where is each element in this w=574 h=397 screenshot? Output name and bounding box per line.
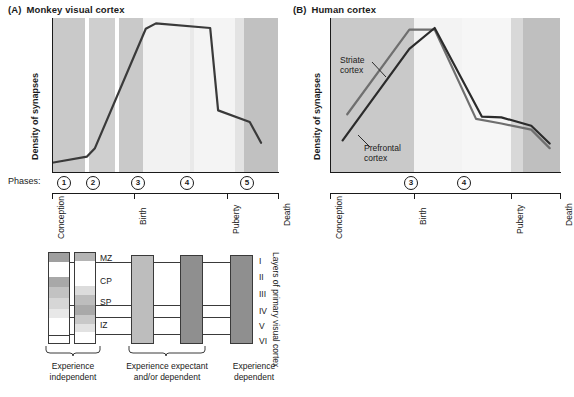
zone-strip-late — [74, 252, 96, 344]
caption-experience-independent-line2: independent — [25, 372, 121, 383]
layer-numeral-iii: III — [259, 289, 266, 299]
striate-cortex-label-line2: cortex — [340, 65, 365, 75]
phase-marker-4: 4 — [180, 176, 194, 190]
phase-marker-2: 2 — [86, 176, 100, 190]
panel-b-timeline-ruler — [330, 193, 561, 194]
zone-label-cp: CP — [100, 276, 112, 286]
layer-numeral-iv: IV — [259, 306, 267, 316]
panel-b-timeline-label-conception: Conception — [334, 196, 344, 239]
panel-b-phase-marker-3: 3 — [404, 176, 418, 190]
layer-numeral-vi: VI — [259, 336, 267, 346]
panel-a-y-axis-label: Density of synapses — [30, 73, 40, 160]
panel-b-tick-death — [560, 193, 561, 199]
column-experience-expectant-dark — [180, 255, 203, 344]
prefrontal-cortex-label-line1: Prefrontal — [364, 143, 401, 153]
panel-b-title: (B)Human cortex — [293, 4, 376, 15]
column-experience-dependent — [230, 255, 253, 344]
column-experience-expectant-light — [131, 255, 154, 344]
panel-b-striate-cortex-line — [347, 30, 549, 149]
panel-a-title: (A)Monkey visual cortex — [8, 4, 125, 15]
panel-a-timeline-label-death: Death — [282, 203, 292, 226]
zone-strip-early — [48, 252, 70, 344]
phase-marker-1: 1 — [57, 176, 71, 190]
panel-b-timeline-label-death: Death — [564, 203, 574, 226]
panel-b-tick-birth — [414, 193, 415, 199]
layer-diagram-side-caption: Layers of primary visual cortex — [271, 252, 281, 367]
panel-a-synapse-density-line — [52, 23, 261, 162]
caption-experience-independent-line1: Experience — [25, 361, 121, 372]
caption-experience-expectant-line1: Experience expectant — [113, 361, 221, 372]
caption-experience-expectant: Experience expectant and/or dependent — [113, 361, 221, 383]
panel-a-plot — [52, 18, 278, 172]
caption-experience-dependent-line2: dependent — [212, 372, 296, 383]
brace-experience-expectant — [127, 345, 207, 357]
panel-b-tag: (B) — [293, 4, 307, 15]
panel-a-timeline-label-puberty: Puberty — [231, 205, 241, 234]
brace-experience-independent — [44, 345, 102, 357]
panel-a-x-axis — [52, 172, 279, 173]
panel-a-title-text: Monkey visual cortex — [27, 4, 125, 15]
striate-cortex-label: Striate cortex — [340, 55, 365, 75]
phase-marker-3: 3 — [131, 176, 145, 190]
caption-experience-independent: Experience independent — [25, 361, 121, 383]
phase-marker-5: 5 — [240, 176, 254, 190]
panel-a-tick-death — [278, 193, 279, 199]
layer-numeral-i: I — [259, 256, 261, 266]
caption-experience-dependent-line1: Experience — [212, 361, 296, 372]
panel-a-timeline-label-conception: Conception — [56, 196, 66, 239]
panel-a-series-svg — [52, 18, 278, 172]
panel-a-y-axis — [52, 18, 53, 173]
panel-b-y-axis — [330, 18, 331, 173]
prefrontal-cortex-label-line2: cortex — [364, 153, 401, 163]
phases-label: Phases: — [8, 176, 41, 186]
panel-b-y-axis-label: Density of synapses — [312, 73, 322, 160]
panel-b-tick-conception — [330, 193, 331, 199]
panel-b-title-text: Human cortex — [312, 4, 377, 15]
layer-numeral-v: V — [259, 321, 265, 331]
panel-b-phase-marker-4: 4 — [457, 176, 471, 190]
caption-experience-expectant-line2: and/or dependent — [113, 372, 221, 383]
panel-a-timeline-ruler — [52, 193, 279, 194]
panel-b-timeline-label-puberty: Puberty — [515, 205, 525, 234]
striate-cortex-label-line1: Striate — [340, 55, 365, 65]
zone-label-iz: IZ — [100, 320, 108, 330]
zone-label-mz: MZ — [100, 253, 112, 263]
panel-a-tick-puberty — [227, 193, 228, 199]
caption-experience-dependent: Experience dependent — [212, 361, 296, 383]
panel-a-tick-conception — [52, 193, 53, 199]
prefrontal-cortex-label: Prefrontal cortex — [364, 143, 401, 163]
panel-b-x-axis — [330, 172, 561, 173]
zone-label-sp: SP — [100, 297, 111, 307]
panel-b-tick-puberty — [511, 193, 512, 199]
panel-a-tag: (A) — [8, 4, 22, 15]
layer-numeral-ii: II — [259, 272, 264, 282]
panel-a-tick-birth — [134, 193, 135, 199]
panel-a-timeline-label-birth: Birth — [138, 208, 148, 225]
panel-b-timeline-label-birth: Birth — [418, 208, 428, 225]
